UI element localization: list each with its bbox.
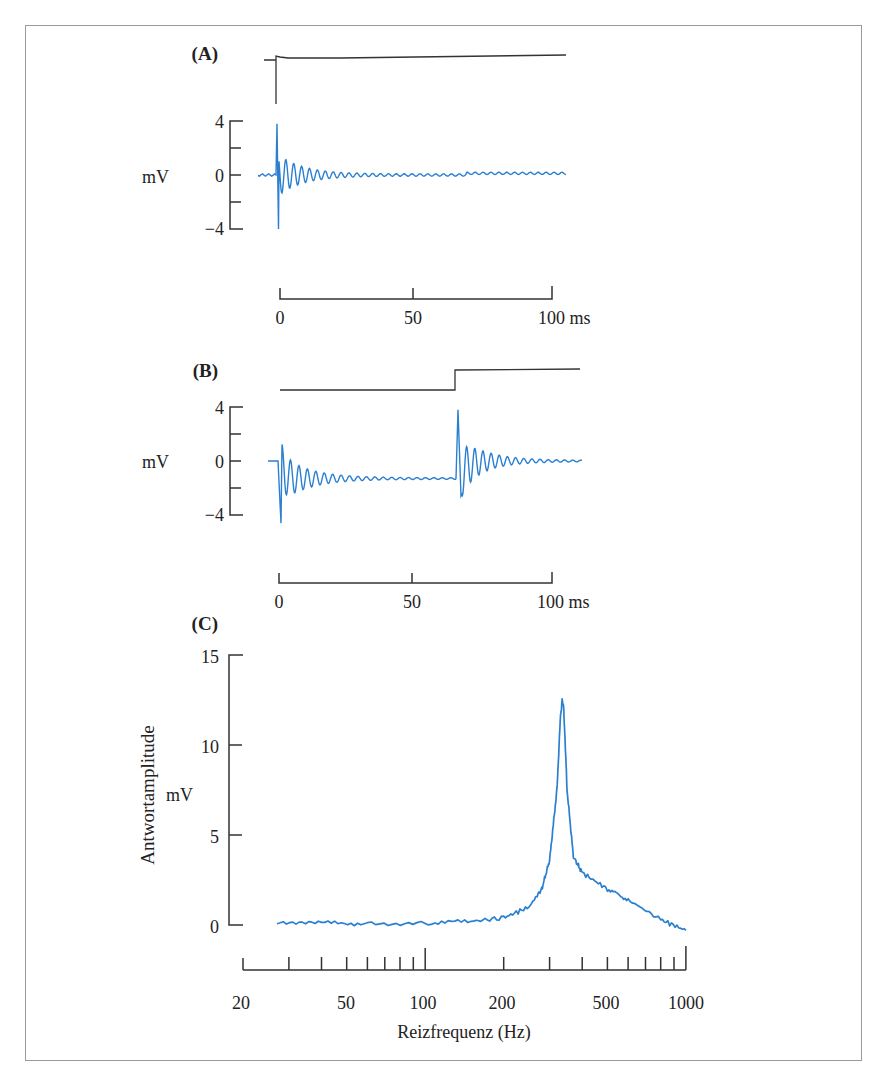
response-trace-b [268, 410, 582, 523]
x-tick-b-100: 100 ms [537, 592, 590, 612]
x-tick-c-50: 50 [337, 993, 355, 1013]
y-tick-c-0: 0 [210, 917, 219, 937]
panel-b: (B) 4 0 −4 mV 0 50 100 ms [142, 360, 590, 612]
x-tick-a-50: 50 [404, 308, 422, 328]
y-axis-label-c: Antwortamplitude [137, 725, 158, 864]
x-scalebar-b [279, 572, 552, 583]
x-tick-c-500: 500 [593, 993, 620, 1013]
y-axis-b [230, 407, 243, 515]
panel-a: (A) 4 0 −4 mV 0 50 100 ms [142, 43, 591, 328]
panel-c: (C) 15 10 5 0 mV Antwortamplitude 20 50 … [137, 613, 704, 1043]
y-tick-a-0: 0 [215, 166, 224, 186]
y-unit-c: mV [166, 785, 193, 805]
y-tick-a-4: 4 [215, 112, 224, 132]
panel-b-label: (B) [193, 360, 218, 382]
stimulus-trace-b [280, 369, 580, 390]
stimulus-trace-a [264, 55, 566, 104]
figure: (A) 4 0 −4 mV 0 50 100 ms (B) 4 0 −4 mV … [0, 0, 878, 1076]
y-unit-b: mV [142, 452, 169, 472]
y-tick-c-15: 15 [201, 647, 219, 667]
y-axis-a [230, 121, 243, 229]
x-tick-c-1000: 1000 [668, 993, 704, 1013]
tuning-curve [277, 699, 686, 931]
x-scalebar-a [280, 286, 552, 299]
x-tick-c-20: 20 [232, 993, 250, 1013]
y-axis-c [229, 655, 243, 925]
x-tick-b-0: 0 [275, 592, 284, 612]
y-tick-c-5: 5 [210, 827, 219, 847]
x-tick-a-0: 0 [276, 308, 285, 328]
x-tick-c-100: 100 [410, 993, 437, 1013]
panel-a-label: (A) [192, 43, 218, 65]
y-tick-a-neg4: −4 [205, 219, 224, 239]
y-tick-b-neg4: −4 [205, 505, 224, 525]
response-trace-a [258, 124, 566, 229]
x-axis-c [243, 946, 686, 970]
y-unit-a: mV [142, 167, 169, 187]
y-tick-c-10: 10 [201, 737, 219, 757]
y-tick-b-0: 0 [215, 452, 224, 472]
y-tick-b-4: 4 [215, 398, 224, 418]
x-tick-b-50: 50 [403, 592, 421, 612]
panel-c-label: (C) [192, 613, 218, 635]
x-tick-a-100: 100 ms [538, 308, 591, 328]
x-axis-label-c: Reizfrequenz (Hz) [397, 1022, 530, 1043]
x-tick-c-200: 200 [489, 993, 516, 1013]
